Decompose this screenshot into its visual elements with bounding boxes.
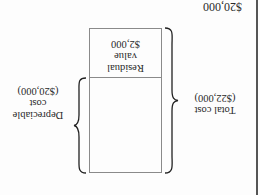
total-cost-brace xyxy=(165,28,178,173)
braces xyxy=(0,0,260,195)
diagram-stage: $20,000 Residual value $2,000 Total cost… xyxy=(0,0,260,195)
depreciable-cost-brace xyxy=(74,78,86,173)
